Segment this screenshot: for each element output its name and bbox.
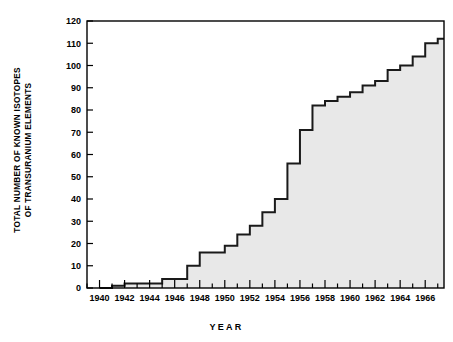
x-tick-label: 1946 — [165, 293, 185, 303]
y-tick-label: 120 — [66, 16, 81, 26]
y-tick-label: 110 — [66, 39, 81, 49]
x-tick-label: 1956 — [290, 293, 310, 303]
y-tick-label: 100 — [66, 61, 81, 71]
y-axis-ticks: 0102030405060708090100110120 — [66, 16, 93, 293]
y-tick-label: 50 — [71, 172, 81, 182]
chart-figure: TOTAL NUMBER OF KNOWN ISOTOPES OF TRANSU… — [0, 0, 453, 342]
x-tick-label: 1950 — [215, 293, 235, 303]
y-tick-label: 40 — [71, 194, 81, 204]
y-tick-label: 80 — [71, 105, 81, 115]
x-tick-label: 1960 — [340, 293, 360, 303]
chart-plot-area: 0102030405060708090100110120 19401942194… — [0, 0, 453, 342]
y-tick-label: 90 — [71, 83, 81, 93]
area-fill — [100, 39, 444, 288]
y-tick-label: 60 — [71, 150, 81, 160]
y-tick-label: 30 — [71, 217, 81, 227]
x-tick-label: 1966 — [415, 293, 435, 303]
y-tick-label: 70 — [71, 128, 81, 138]
x-tick-label: 1942 — [115, 293, 135, 303]
x-tick-label: 1954 — [265, 293, 285, 303]
x-tick-label: 1952 — [240, 293, 260, 303]
x-tick-label: 1940 — [90, 293, 110, 303]
x-tick-label: 1944 — [140, 293, 160, 303]
x-tick-label: 1948 — [190, 293, 210, 303]
x-tick-label: 1964 — [390, 293, 410, 303]
y-tick-label: 10 — [71, 261, 81, 271]
y-tick-label: 20 — [71, 239, 81, 249]
x-tick-label: 1962 — [365, 293, 385, 303]
y-tick-label: 0 — [76, 283, 81, 293]
x-tick-label: 1958 — [315, 293, 335, 303]
x-axis-title: YEAR — [0, 322, 453, 332]
